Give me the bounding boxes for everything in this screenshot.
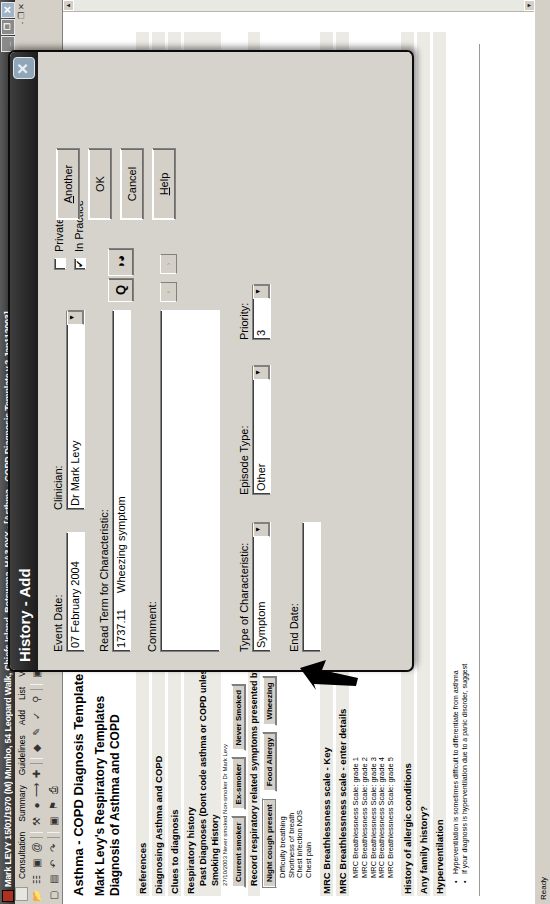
private-label: Private xyxy=(53,218,65,252)
clinician-field[interactable]: Dr Mark Levy xyxy=(66,310,85,510)
end-date-field[interactable] xyxy=(302,522,321,652)
event-date-label: Event Date: xyxy=(52,595,64,652)
read-term-label: Read Term for Characteristic: xyxy=(98,509,110,652)
rotated-screen-wrapper: Mark LEVY 15/01/1970 (M) Mumbo, 54 Leopa… xyxy=(0,0,550,904)
cancel-button[interactable]: Cancel xyxy=(120,148,144,220)
read-term-code: 1737.11 xyxy=(115,609,127,648)
clipboard-icon[interactable]: ☷ xyxy=(29,872,44,887)
toolbar-separator-2 xyxy=(30,758,43,764)
vertical-scrollbar[interactable]: ▲ ▼ xyxy=(63,0,535,12)
priority-dropdown-arrow[interactable]: ▼ xyxy=(253,284,270,299)
comment-field[interactable] xyxy=(160,310,220,652)
menu-item-summary[interactable]: Summary xyxy=(17,780,27,826)
at-icon[interactable]: @ xyxy=(29,840,44,855)
application-window: Mark LEVY 15/01/1970 (M) Mumbo, 54 Leopa… xyxy=(0,0,550,904)
toolbar-separator xyxy=(30,832,43,838)
redo-icon[interactable]: ↷ xyxy=(46,840,61,855)
toolbar2-separator xyxy=(47,832,60,838)
hyperventilation-bullet-2: If your diagnosis is hyperventilation du… xyxy=(460,32,469,896)
hyperventilation-bullet-1: Hyperventilation is sometimes difficult … xyxy=(451,32,460,896)
search-icon[interactable]: ⚲ xyxy=(29,692,44,707)
calendar-icon[interactable]: ▣ xyxy=(29,856,44,871)
end-date-label: End Date: xyxy=(288,603,300,652)
dialog-title-bar: History - Add ✕ xyxy=(10,52,38,670)
prescription-icon[interactable]: ⚒ xyxy=(29,814,44,829)
clinician-dropdown-arrow[interactable]: ▼ xyxy=(67,310,84,325)
scroll-up-button[interactable]: ▲ xyxy=(63,0,74,11)
night-cough-present-button[interactable]: Night cough present xyxy=(262,798,277,888)
type-of-characteristic-field[interactable]: Symptom xyxy=(252,522,271,652)
footer-divider xyxy=(479,44,480,896)
episode-type-label: Episode Type: xyxy=(238,425,250,495)
nav-prev-button[interactable]: ‹ xyxy=(160,282,177,302)
history-add-dialog: History - Add ✕ Event Date: 07 February … xyxy=(8,50,414,672)
priority-label: Priority: xyxy=(238,303,250,340)
toolbar-separator-3 xyxy=(30,684,43,690)
pill-icon[interactable]: ● xyxy=(29,798,44,813)
another-button[interactable]: Another xyxy=(56,148,80,220)
spell-check-icon[interactable]: ✓ xyxy=(29,708,44,723)
clinician-label: Clinician: xyxy=(52,465,64,510)
folder-icon[interactable]: 📂 xyxy=(29,888,44,903)
episode-type-dropdown-arrow[interactable]: ▼ xyxy=(253,365,270,380)
dialog-title: History - Add xyxy=(16,79,33,665)
ok-button[interactable]: OK xyxy=(88,148,112,220)
in-practice-checkbox[interactable]: ✔ xyxy=(74,258,86,270)
wheezing-button[interactable]: Wheezing xyxy=(262,676,277,725)
never-smoked-button[interactable]: Never Smoked xyxy=(231,684,246,752)
glasses-icon-button[interactable]: ◑◕ xyxy=(108,248,134,276)
close-button[interactable]: ✕ xyxy=(1,2,15,18)
ex-smoker-button[interactable]: Ex-smoker xyxy=(231,758,246,811)
private-checkbox[interactable] xyxy=(54,258,66,270)
menu-item-consultation[interactable]: Consultation xyxy=(17,827,27,884)
current-smoker-button[interactable]: Current smoker xyxy=(231,816,246,888)
copy-icon[interactable]: ▤ xyxy=(46,872,61,887)
tag2-icon[interactable]: ⚑ xyxy=(46,798,61,813)
section-any-family-history[interactable]: Any family history? xyxy=(417,32,430,896)
child-restore-button[interactable]: ❐ xyxy=(17,12,26,19)
status-bar: Ready xyxy=(534,0,550,904)
pencil-icon[interactable]: ✎ xyxy=(29,724,44,739)
child-close-button[interactable]: ✕ xyxy=(17,3,26,10)
app-icon xyxy=(2,890,14,902)
window-icon[interactable]: ▣ xyxy=(46,814,61,829)
page-icon[interactable]: ▢ xyxy=(46,888,61,903)
diamond-icon[interactable]: ◆ xyxy=(29,740,44,755)
type-of-characteristic-label: Type of Characteristic: xyxy=(238,543,250,652)
event-date-field[interactable]: 07 February 2004 xyxy=(66,532,85,652)
read-term-field[interactable]: 1737.11 Wheezing symptom xyxy=(112,310,131,652)
menu-item-add[interactable]: Add xyxy=(17,705,27,730)
plus-icon[interactable]: ✚ xyxy=(29,766,44,781)
food-allergy-button[interactable]: Food Allergy xyxy=(262,732,277,793)
undo-icon[interactable]: ↶ xyxy=(46,856,61,871)
window-controls[interactable]: _ ❐ ✕ xyxy=(1,2,15,52)
help-button[interactable]: Help xyxy=(152,148,176,220)
annotation-arrow-icon xyxy=(300,638,360,690)
another-label: nother xyxy=(62,165,74,196)
search-icon-button[interactable]: Q xyxy=(108,278,134,302)
arrow-icon[interactable]: ⟶ xyxy=(29,782,44,797)
comment-label: Comment: xyxy=(146,601,158,652)
document-icon xyxy=(15,887,28,901)
printer2-icon[interactable]: ⎙ xyxy=(46,782,61,797)
menu-item-guidelines[interactable]: Guidelines xyxy=(17,730,27,780)
read-term-value: Wheezing symptom xyxy=(115,496,127,593)
type-of-characteristic-dropdown-arrow[interactable]: ▼ xyxy=(253,522,270,537)
child-minimize-button[interactable]: - xyxy=(17,21,26,24)
child-window-controls[interactable]: - ❐ ✕ xyxy=(17,0,26,24)
status-text: Ready xyxy=(539,877,548,900)
episode-type-field[interactable]: Other xyxy=(252,365,271,495)
restore-button[interactable]: ❐ xyxy=(1,19,15,35)
dialog-close-icon[interactable]: ✕ xyxy=(13,57,35,79)
help-label: elp xyxy=(158,173,170,188)
nav-next-button[interactable]: › xyxy=(160,254,177,274)
menu-item-list[interactable]: List xyxy=(17,682,27,705)
section-hyperventilation[interactable]: Hyperventilation xyxy=(433,32,446,896)
dialog-body: Event Date: 07 February 2004 Clinician: … xyxy=(38,52,410,670)
